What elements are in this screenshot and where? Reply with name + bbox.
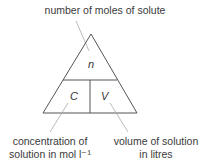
v-cell-label: V: [101, 90, 108, 102]
leader-line-right: [110, 103, 128, 132]
volume-label: volume of solution in litres: [108, 135, 204, 161]
leader-line-top: [76, 21, 89, 51]
leader-line-left: [50, 103, 68, 132]
c-cell-label: C: [70, 90, 78, 102]
moles-label: number of moles of solute: [30, 4, 180, 17]
n-cell-label: n: [88, 58, 94, 70]
concentration-label: concentration of solution in mol l⁻¹: [2, 135, 98, 161]
